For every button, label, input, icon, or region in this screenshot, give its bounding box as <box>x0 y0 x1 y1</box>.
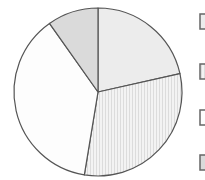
legend-swatch-1 <box>200 14 205 29</box>
pie-chart <box>0 0 205 180</box>
legend-swatch-4 <box>200 155 205 170</box>
legend-swatch-2 <box>200 64 205 79</box>
legend-swatch-3 <box>200 110 205 125</box>
chart-legend <box>200 14 205 170</box>
pie-slices <box>14 8 182 176</box>
